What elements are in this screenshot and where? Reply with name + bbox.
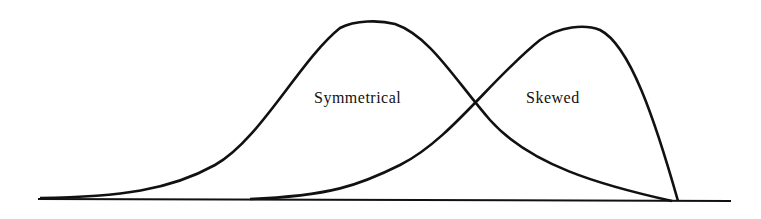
curves-graphic: [0, 0, 761, 219]
symmetrical-label: Symmetrical: [314, 89, 401, 107]
distribution-diagram: Symmetrical Skewed: [0, 0, 761, 219]
symmetrical-curve: [40, 21, 672, 201]
baseline-axis: [38, 199, 731, 201]
skewed-label: Skewed: [526, 89, 580, 107]
